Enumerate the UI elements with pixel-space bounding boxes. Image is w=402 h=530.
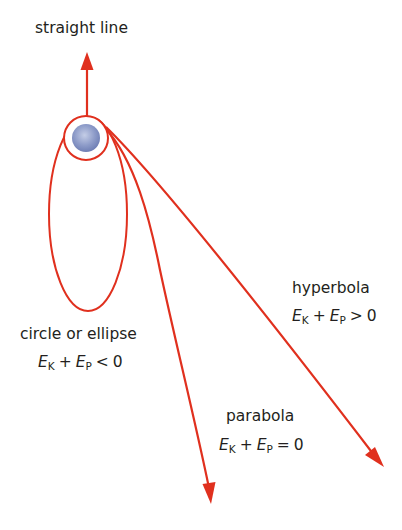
arrowhead-icon <box>81 52 94 70</box>
label-ellipse: circle or ellipse <box>20 325 137 343</box>
central-mass-ball <box>72 124 100 152</box>
label-parabola: parabola <box>226 407 294 425</box>
label-hyperbola: hyperbola <box>292 279 370 297</box>
equation-parabola: EK+EP=0 <box>219 436 304 455</box>
parabola-trajectory <box>105 128 216 504</box>
equation-ellipse: EK+EP<0 <box>38 353 123 372</box>
arrowhead-icon <box>365 447 384 467</box>
straight-line-trajectory <box>81 52 94 116</box>
orbit-trajectory-diagram: straight line circle or ellipse EK+EP<0 … <box>0 0 402 530</box>
arrowhead-icon <box>203 482 216 504</box>
label-straight-line: straight line <box>35 19 128 37</box>
equation-hyperbola: EK+EP>0 <box>292 307 377 326</box>
